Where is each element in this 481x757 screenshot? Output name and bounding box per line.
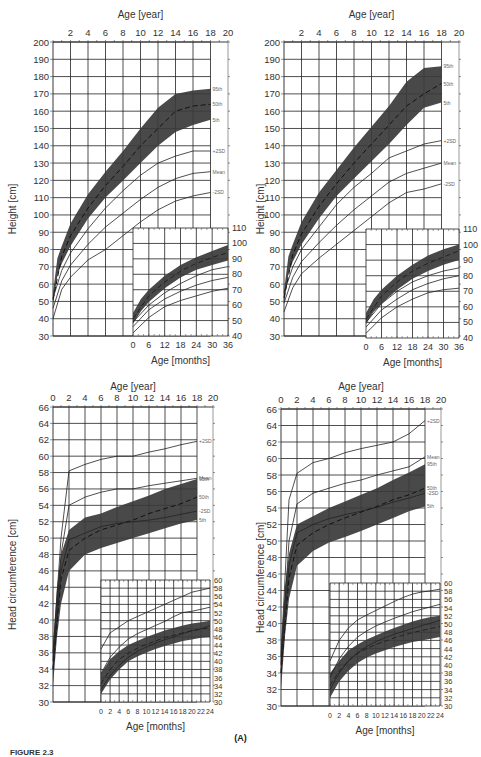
svg-text:140: 140 — [264, 140, 280, 151]
svg-text:14: 14 — [401, 27, 412, 38]
svg-text:24: 24 — [423, 342, 433, 352]
svg-text:4: 4 — [85, 27, 90, 38]
svg-text:50: 50 — [38, 533, 49, 544]
svg-text:58: 58 — [444, 587, 452, 596]
svg-text:36: 36 — [454, 342, 464, 352]
svg-text:4: 4 — [310, 394, 315, 405]
svg-text:2: 2 — [108, 708, 112, 715]
x-axis-title: Age [year] — [349, 9, 395, 20]
svg-text:0: 0 — [50, 392, 55, 403]
svg-text:20: 20 — [208, 392, 219, 403]
svg-text:56: 56 — [444, 595, 452, 604]
svg-text:50: 50 — [214, 617, 222, 626]
svg-text:160: 160 — [264, 106, 280, 117]
svg-text:54: 54 — [38, 500, 49, 511]
svg-text:40: 40 — [38, 615, 49, 626]
svg-text:14: 14 — [390, 712, 398, 719]
y-axis-title: Head circumference [cm] — [7, 519, 18, 630]
svg-text:120: 120 — [33, 175, 49, 186]
svg-text:50: 50 — [38, 296, 49, 307]
svg-text:60: 60 — [38, 279, 49, 290]
svg-text:90: 90 — [269, 227, 280, 238]
svg-text:0: 0 — [130, 340, 135, 350]
svg-text:60: 60 — [266, 453, 277, 464]
svg-text:48: 48 — [38, 549, 49, 560]
svg-text:60: 60 — [38, 451, 49, 462]
svg-text:10: 10 — [366, 27, 377, 38]
svg-text:50: 50 — [266, 536, 277, 547]
svg-text:180: 180 — [33, 71, 49, 82]
svg-text:Mean: Mean — [427, 454, 440, 460]
svg-text:-2SD: -2SD — [427, 490, 439, 496]
svg-text:5th: 5th — [199, 517, 206, 523]
svg-text:40: 40 — [444, 661, 452, 670]
svg-text:110: 110 — [463, 224, 477, 234]
svg-text:4: 4 — [82, 392, 87, 403]
svg-text:90: 90 — [463, 255, 473, 265]
svg-text:46: 46 — [38, 565, 49, 576]
inset-x-axis-title: Age [months] — [383, 357, 442, 368]
svg-text:50th: 50th — [199, 494, 209, 500]
svg-text:20: 20 — [436, 394, 447, 405]
inset-y-tick-labels: 30323436384042444648505254565860 — [444, 579, 452, 711]
svg-text:6: 6 — [103, 27, 108, 38]
svg-text:+2SD: +2SD — [444, 138, 457, 144]
svg-text:70: 70 — [463, 286, 473, 296]
svg-text:20: 20 — [418, 712, 426, 719]
svg-text:18: 18 — [420, 394, 431, 405]
svg-text:18: 18 — [436, 27, 447, 38]
svg-text:40: 40 — [269, 313, 280, 324]
svg-text:10: 10 — [372, 712, 380, 719]
svg-text:0: 0 — [99, 708, 103, 715]
svg-text:50: 50 — [232, 316, 242, 326]
svg-text:36: 36 — [38, 647, 49, 658]
svg-text:16: 16 — [170, 708, 178, 715]
svg-text:42: 42 — [266, 602, 277, 613]
svg-text:100: 100 — [463, 240, 478, 250]
svg-text:130: 130 — [264, 158, 280, 169]
svg-text:8: 8 — [114, 392, 119, 403]
svg-text:6: 6 — [126, 708, 130, 715]
svg-text:+2SD: +2SD — [199, 438, 212, 444]
svg-text:16: 16 — [399, 712, 407, 719]
svg-text:50th: 50th — [444, 81, 454, 87]
svg-text:42: 42 — [38, 598, 49, 609]
x-tick-labels: 2468101214161820 — [68, 27, 233, 38]
svg-text:95th: 95th — [427, 461, 437, 467]
svg-text:38: 38 — [214, 665, 222, 674]
svg-text:2: 2 — [337, 712, 341, 719]
svg-text:5th: 5th — [427, 503, 434, 509]
svg-text:12: 12 — [152, 708, 160, 715]
svg-text:110: 110 — [265, 192, 280, 203]
svg-text:18: 18 — [407, 342, 417, 352]
x-axis-title: Age [year] — [338, 381, 384, 392]
svg-text:90: 90 — [38, 227, 49, 238]
svg-text:16: 16 — [419, 27, 430, 38]
svg-text:12: 12 — [384, 27, 395, 38]
svg-text:2: 2 — [299, 27, 304, 38]
svg-text:36: 36 — [214, 674, 222, 683]
y-axis-title: Height [cm] — [7, 183, 18, 234]
svg-text:-2SD: -2SD — [199, 508, 211, 514]
svg-text:190: 190 — [33, 54, 49, 65]
svg-text:-2SD: -2SD — [444, 181, 456, 187]
svg-text:8: 8 — [351, 27, 356, 38]
svg-text:66: 66 — [38, 402, 49, 413]
height-left-chart: 95th50th5th+2SDMean-2SD30405060708090100… — [7, 9, 247, 366]
svg-text:95th: 95th — [213, 86, 223, 92]
inset-y-tick-labels: 30323436384042444648505254565860 — [214, 576, 222, 707]
x-axis-title: Age [year] — [118, 9, 164, 20]
svg-text:8: 8 — [135, 708, 139, 715]
svg-text:80: 80 — [269, 244, 280, 255]
svg-text:Mean: Mean — [213, 169, 226, 175]
curve-labels: 95th50th5th+2SDMean-2SD — [444, 63, 457, 187]
svg-text:6: 6 — [98, 392, 103, 403]
svg-text:54: 54 — [266, 503, 277, 514]
svg-text:170: 170 — [33, 88, 49, 99]
svg-text:100: 100 — [33, 209, 49, 220]
svg-text:46: 46 — [266, 569, 277, 580]
svg-text:2: 2 — [68, 27, 73, 38]
svg-text:44: 44 — [266, 585, 277, 596]
svg-text:100: 100 — [264, 209, 280, 220]
svg-text:42: 42 — [444, 653, 452, 662]
